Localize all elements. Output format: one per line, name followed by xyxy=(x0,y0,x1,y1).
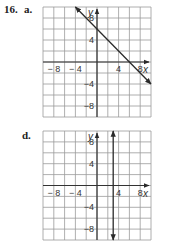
x-tick-label: − 8 xyxy=(47,64,60,74)
y-tick-label: −8 xyxy=(84,224,94,234)
charts-canvas: xy− 8− 44884−4−8xy− 8− 44884−4−8 xyxy=(0,0,189,249)
y-tick-label: −8 xyxy=(84,101,94,111)
y-tick-label: 8 xyxy=(89,137,94,147)
graph-line xyxy=(75,7,151,84)
y-tick-label: −4 xyxy=(84,202,94,212)
x-tick-label: 8 xyxy=(138,188,143,198)
x-tick-label: − 8 xyxy=(47,188,60,198)
x-tick-label: 4 xyxy=(116,64,121,74)
y-tick-label: 4 xyxy=(89,159,94,169)
x-tick-label: − 4 xyxy=(69,64,82,74)
y-tick-label: 4 xyxy=(89,35,94,45)
chart-d: xy− 8− 44884−4−8 xyxy=(43,131,151,240)
y-tick-label: −4 xyxy=(84,79,94,89)
x-axis-label: x xyxy=(142,188,149,199)
x-axis-label: x xyxy=(142,64,149,75)
chart-a: xy− 8− 44884−4−8 xyxy=(43,7,151,117)
x-tick-label: 4 xyxy=(116,188,121,198)
x-tick-label: − 4 xyxy=(69,188,82,198)
